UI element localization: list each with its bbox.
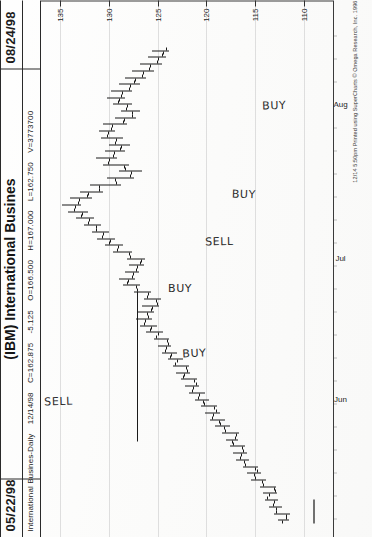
quote-date: 12/14/98 xyxy=(26,392,35,424)
minor-date-tick xyxy=(334,380,337,381)
ohlc-open-tick xyxy=(255,467,256,470)
ohlc-bar xyxy=(68,211,87,212)
ohlc-close-tick xyxy=(196,382,197,385)
ohlc-open-tick xyxy=(115,178,116,181)
sell-annotation: SELL xyxy=(44,394,73,408)
ohlc-open-tick xyxy=(194,379,195,382)
end-date-label: 08/24/98 xyxy=(3,11,18,63)
ohlc-open-tick xyxy=(143,71,144,74)
ohlc-bar xyxy=(152,50,170,51)
scanned-chart-sheet: 05/22/98 (IBM) International Busines 08/… xyxy=(0,0,372,537)
header-top-rule xyxy=(0,0,1,537)
ohlc-bar xyxy=(70,197,91,198)
minor-date-tick xyxy=(334,357,337,358)
month-label: Jul xyxy=(335,254,345,263)
quote-volume: V=3773700 xyxy=(26,110,35,152)
ohlc-close-tick xyxy=(257,469,258,472)
price-gridline xyxy=(60,0,61,537)
price-axis-label: 115 xyxy=(251,8,260,21)
minor-date-tick xyxy=(334,518,337,519)
ohlc-open-tick xyxy=(116,138,117,141)
ohlc-open-tick xyxy=(130,84,131,87)
ohlc-close-tick xyxy=(233,442,234,445)
ohlc-open-tick xyxy=(135,78,136,81)
ohlc-open-tick xyxy=(119,98,120,101)
minor-date-tick xyxy=(334,58,337,59)
ohlc-close-tick xyxy=(125,167,126,170)
ohlc-open-tick xyxy=(163,51,164,54)
ohlc-close-tick xyxy=(156,335,157,338)
ohlc-open-tick xyxy=(118,245,119,248)
ohlc-open-tick xyxy=(137,265,138,268)
price-axis-label: 130 xyxy=(105,8,114,21)
ohlc-open-tick xyxy=(219,420,220,423)
ohlc-open-tick xyxy=(254,473,255,476)
minor-date-tick xyxy=(334,219,337,220)
ohlc-open-tick xyxy=(286,514,287,517)
price-gridline xyxy=(109,0,110,537)
ohlc-close-tick xyxy=(148,315,149,318)
ohlc-bar xyxy=(107,97,125,98)
quote-change: -5.125 xyxy=(26,310,35,333)
minor-date-tick xyxy=(334,104,337,105)
ohlc-bar xyxy=(101,137,122,138)
ohlc-open-tick xyxy=(262,480,263,483)
minor-date-tick xyxy=(334,403,337,404)
ohlc-open-tick xyxy=(236,433,237,436)
ohlc-bar xyxy=(113,103,132,104)
ohlc-open-tick xyxy=(89,218,90,221)
ohlc-open-tick xyxy=(269,493,270,496)
ohlc-close-tick xyxy=(216,409,217,412)
price-gridline xyxy=(255,0,256,537)
ohlc-open-tick xyxy=(145,319,146,322)
ohlc-close-tick xyxy=(175,362,176,365)
minor-date-tick xyxy=(334,35,337,36)
ohlc-close-tick xyxy=(225,429,226,432)
ohlc-open-tick xyxy=(232,440,233,443)
ohlc-open-tick xyxy=(166,346,167,349)
ohlc-open-tick xyxy=(186,366,187,369)
minor-date-tick xyxy=(334,150,337,151)
quote-summary-line: International Busines-Daily 12/14/98 C=1… xyxy=(26,103,35,531)
chart-title: (IBM) International Busines xyxy=(2,0,18,537)
minor-date-tick xyxy=(334,288,337,289)
ohlc-bar xyxy=(105,244,123,245)
ohlc-bar xyxy=(121,110,140,111)
minor-date-tick xyxy=(334,472,337,473)
ohlc-bar xyxy=(236,459,250,460)
price-axis-label: 135 xyxy=(56,8,65,21)
ohlc-close-tick xyxy=(166,47,167,50)
sell-signal-line xyxy=(137,291,138,441)
ohlc-bar xyxy=(97,238,115,239)
ohlc-bar xyxy=(278,519,289,520)
month-label: Jun xyxy=(334,395,347,404)
ohlc-open-tick xyxy=(103,232,104,235)
quote-symbol: International Busines-Daily xyxy=(26,433,35,531)
ohlc-bar xyxy=(146,331,163,332)
quote-low: L=162.750 xyxy=(26,162,35,201)
ohlc-open-tick xyxy=(199,393,200,396)
ohlc-open-tick xyxy=(152,306,153,309)
ohlc-close-tick xyxy=(168,342,169,345)
ohlc-open-tick xyxy=(96,225,97,228)
minor-date-tick xyxy=(334,127,337,128)
ohlc-open-tick xyxy=(184,373,185,376)
ohlc-open-tick xyxy=(124,165,125,168)
price-axis-label: 120 xyxy=(202,8,211,21)
ohlc-open-tick xyxy=(167,339,168,342)
ohlc-open-tick xyxy=(156,299,157,302)
minor-date-tick xyxy=(334,311,337,312)
buy-annotation: BUY xyxy=(262,98,287,112)
ohlc-open-tick xyxy=(213,413,214,416)
ohlc-bar xyxy=(92,231,110,232)
ohlc-open-tick xyxy=(274,487,275,490)
minor-date-tick xyxy=(334,173,337,174)
ohlc-open-tick xyxy=(136,285,137,288)
buy-annotation: BUY xyxy=(168,281,192,294)
ohlc-close-tick xyxy=(267,496,268,499)
scan-smudge xyxy=(313,499,315,523)
rotated-chart-container: 05/22/98 (IBM) International Busines 08/… xyxy=(0,0,372,537)
plot-right-border xyxy=(41,0,333,1)
ohlc-open-tick xyxy=(99,185,100,188)
ohlc-close-tick xyxy=(116,181,117,184)
